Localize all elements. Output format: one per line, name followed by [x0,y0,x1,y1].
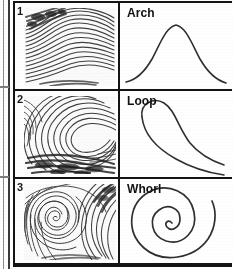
pattern-label: Whorl [127,183,162,196]
fingerprint-cell: 2 [15,91,120,177]
pattern-diagram-cell: Arch [120,3,232,89]
table-row: 2 [15,91,232,179]
fingerprint-pattern-figure: 1 [0,0,233,269]
pattern-table: 1 [13,1,232,267]
gutter-rule-inner [8,0,10,269]
fingerprint-cell: 3 [15,179,120,263]
table-row: 3 [15,179,232,265]
fingerprint-arch-icon [24,8,116,86]
pattern-label: Arch [127,7,155,20]
row-number: 1 [17,6,23,17]
page-gutter [0,0,14,269]
gutter-nick-2 [0,176,9,178]
pattern-diagram-cell: Loop [120,91,232,177]
fingerprint-cell: 1 [15,3,120,89]
row-number: 2 [17,94,23,105]
row-number: 3 [17,182,23,193]
pattern-label: Loop [127,95,157,108]
pattern-diagram-cell: Whorl [120,179,232,263]
table-row: 1 [15,3,232,91]
gutter-nick-1 [0,86,9,88]
fingerprint-loop-icon [24,96,116,174]
fingerprint-whorl-icon [24,184,116,260]
gutter-rule-outer [3,0,4,269]
